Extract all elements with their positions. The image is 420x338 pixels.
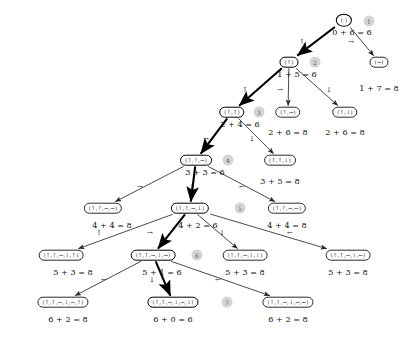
edge-action-label: → xyxy=(147,229,153,237)
edge-action-label: → xyxy=(348,38,354,46)
tree-node-n3[interactable]: (↑,↑) xyxy=(219,107,244,118)
edge-action-label: ↑ xyxy=(242,86,248,94)
edge-action-label: ↓ xyxy=(189,183,195,191)
node-cost-n10: 4 + 4 = 8 xyxy=(267,220,306,230)
expansion-order-badge-7: 7 xyxy=(222,297,233,308)
tree-node-n4[interactable]: (↑,→) xyxy=(275,107,300,118)
edge-action-label: ↓ xyxy=(219,229,225,237)
edge-action-label: ↓ xyxy=(326,86,332,94)
node-cost-n2: 1 + 7 = 8 xyxy=(359,83,398,93)
tree-node-n14[interactable]: (↑,↑,→,↓,←) xyxy=(326,250,371,261)
node-cost-n6: 3 + 3 = 6 xyxy=(185,167,224,177)
node-cost-n7: 3 + 5 = 8 xyxy=(260,176,299,186)
edge-action-label: → xyxy=(137,183,143,191)
node-cost-n12: 5 + 1 = 6 xyxy=(142,267,181,277)
node-cost-n9: 4 + 2 = 6 xyxy=(178,220,217,230)
tree-node-n10[interactable]: (↑,↑,→,←) xyxy=(268,203,306,214)
expansion-order-badge-6: 6 xyxy=(192,250,203,261)
node-cost-n8: 4 + 4 = 8 xyxy=(92,220,131,230)
edge-action-label: → xyxy=(277,86,283,94)
tree-node-n15[interactable]: (↑,↑,→,↓,→,↑) xyxy=(37,297,88,308)
edge-action-label: ↓ xyxy=(149,276,155,284)
tree-node-n0[interactable]: ( ) xyxy=(336,14,352,27)
tree-node-n1[interactable]: (↑) xyxy=(279,57,298,68)
tree-node-n12[interactable]: (↑,↑,→,↓,→) xyxy=(131,250,176,261)
node-cost-n16: 6 + 0 = 6 xyxy=(153,314,192,324)
tree-node-n11[interactable]: (↑,↑,→,↓,↑) xyxy=(39,250,84,261)
search-tree-diagram: ( )(↑)(→)(↑,↑)(↑,→)(↑,↓)(↑,↑,→)(↑,↑,↓)(↑… xyxy=(0,0,420,338)
expansion-order-badge-3: 3 xyxy=(254,107,265,118)
node-cost-n15: 6 + 2 = 8 xyxy=(48,314,87,324)
node-cost-n5: 2 + 6 = 8 xyxy=(325,127,364,137)
edge-action-label: ← xyxy=(287,229,293,237)
tree-node-n5[interactable]: (↑,↓) xyxy=(332,107,357,118)
edge-action-label: ↓ xyxy=(249,135,255,143)
tree-node-n6[interactable]: (↑,↑,→) xyxy=(180,155,212,166)
tree-node-n8[interactable]: (↑,↑,→,→) xyxy=(84,203,122,214)
node-cost-n3: 2 + 4 = 6 xyxy=(220,119,259,129)
node-cost-n4: 2 + 6 = 8 xyxy=(268,127,307,137)
node-cost-n17: 6 + 2 = 8 xyxy=(268,314,307,324)
edge-action-label: ← xyxy=(215,276,221,284)
tree-node-n16[interactable]: (↑,↑,→,↓,→,↓) xyxy=(147,297,198,308)
edge-action-label: → xyxy=(203,135,209,143)
tree-node-n17[interactable]: (↑,↑,→,↓,→,←) xyxy=(262,297,313,308)
tree-node-n9[interactable]: (↑,↑,→,↓) xyxy=(171,203,209,214)
expansion-order-badge-1: 1 xyxy=(364,16,375,27)
edge-action-label: ← xyxy=(101,276,107,284)
node-cost-n13: 5 + 3 = 8 xyxy=(225,267,264,277)
node-cost-n1: 1 + 5 = 6 xyxy=(277,69,316,79)
edge-action-label: ← xyxy=(239,183,245,191)
tree-node-n13[interactable]: (↑,↑,→,↓,↓) xyxy=(223,250,268,261)
node-cost-n14: 5 + 3 = 8 xyxy=(328,267,367,277)
expansion-order-badge-4: 4 xyxy=(223,155,234,166)
expansion-order-badge-2: 2 xyxy=(310,57,321,68)
edge-action-label: ↑ xyxy=(299,38,305,46)
node-cost-n11: 5 + 3 = 8 xyxy=(53,267,92,277)
tree-node-n2[interactable]: (→) xyxy=(369,57,388,68)
tree-node-n7[interactable]: (↑,↑,↓) xyxy=(264,155,296,166)
expansion-order-badge-5: 5 xyxy=(235,203,246,214)
node-cost-n0: 0 + 6 = 6 xyxy=(332,27,371,37)
tree-edge-n6-n8 xyxy=(115,166,184,201)
edge-action-label: ↑ xyxy=(96,229,102,237)
